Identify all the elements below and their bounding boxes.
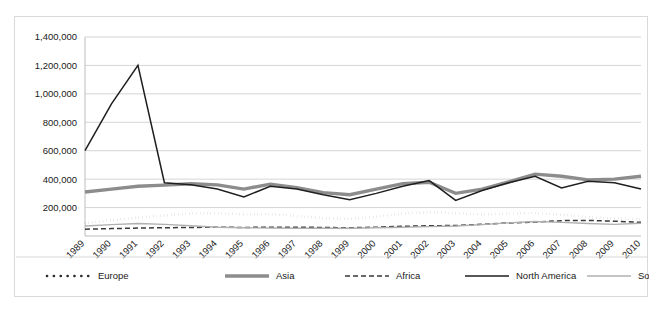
legend-label-africa: Africa [396, 270, 421, 281]
y-tick-label: 800,000 [43, 117, 77, 128]
gridlines [85, 37, 641, 236]
chart-legend: EuropeAsiaAfricaNorth AmericaSouth Ameri… [16, 257, 649, 281]
line-chart: 200,000400,000600,000800,0001,000,0001,2… [15, 17, 649, 298]
y-tick-label: 1,000,000 [35, 88, 77, 99]
series-line-north-america [85, 65, 641, 200]
y-tick-label: 200,000 [43, 202, 77, 213]
legend-label-south-america: South America [638, 270, 649, 281]
chart-canvas: 200,000400,000600,000800,0001,000,0001,2… [15, 17, 649, 298]
y-tick-label: 400,000 [43, 174, 77, 185]
legend-label-north-america: North America [516, 270, 577, 281]
y-tick-label: 1,200,000 [35, 60, 77, 71]
legend-label-asia: Asia [276, 270, 295, 281]
chart-card: 200,000400,000600,000800,0001,000,0001,2… [14, 16, 648, 297]
y-tick-label: 600,000 [43, 145, 77, 156]
y-axis-labels: 200,000400,000600,000800,0001,000,0001,2… [35, 31, 77, 213]
series-line-asia [85, 174, 641, 195]
y-tick-label: 1,400,000 [35, 31, 77, 42]
legend-label-europe: Europe [98, 270, 129, 281]
series-lines [85, 65, 641, 229]
